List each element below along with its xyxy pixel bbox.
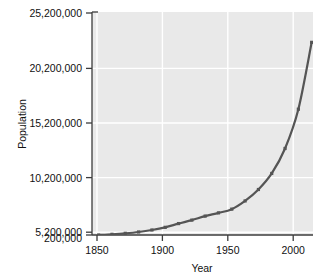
data-point-marker bbox=[177, 222, 180, 225]
xtick-label-2000: 2000 bbox=[282, 244, 306, 256]
data-point-marker bbox=[230, 208, 233, 211]
data-point-marker bbox=[190, 219, 193, 222]
ytick-label-15200000: 15,200,000 bbox=[29, 117, 82, 129]
data-point-marker bbox=[283, 147, 286, 150]
ytick-label-10200000: 10,200,000 bbox=[29, 172, 82, 184]
x-axis-title: Year bbox=[191, 262, 213, 274]
ytick-label-25200000: 25,200,000 bbox=[29, 7, 82, 19]
ytick-label-200000: 200,000 bbox=[44, 232, 82, 244]
xtick-label-1950: 1950 bbox=[216, 244, 240, 256]
chart-canvas: 25,200,000 20,200,000 15,200,000 10,200,… bbox=[0, 0, 326, 278]
data-point-marker bbox=[244, 199, 247, 202]
data-point-marker bbox=[137, 230, 140, 233]
data-point-marker bbox=[150, 228, 153, 231]
xtick-label-1850: 1850 bbox=[85, 244, 109, 256]
y-axis-title: Population bbox=[16, 99, 28, 149]
data-point-marker bbox=[204, 214, 207, 217]
xtick-label-1900: 1900 bbox=[151, 244, 175, 256]
data-point-marker bbox=[270, 172, 273, 175]
ytick-label-20200000: 20,200,000 bbox=[29, 62, 82, 74]
data-point-marker bbox=[164, 226, 167, 229]
data-point-marker bbox=[217, 211, 220, 214]
population-growth-chart: 25,200,000 20,200,000 15,200,000 10,200,… bbox=[0, 0, 326, 278]
data-point-marker bbox=[124, 232, 127, 235]
data-point-marker bbox=[257, 188, 260, 191]
data-point-marker bbox=[297, 108, 300, 111]
data-point-marker bbox=[310, 41, 313, 44]
